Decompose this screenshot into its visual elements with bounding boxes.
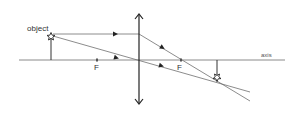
arrow-icon (113, 32, 118, 37)
focal-point-left (96, 59, 98, 62)
parallel-ray-refracted (139, 34, 250, 101)
focal-label-right: F (177, 64, 182, 72)
rays (53, 34, 250, 101)
focal-point-right (180, 59, 182, 62)
ray-diagram (0, 0, 289, 115)
image-marker (213, 60, 221, 82)
object-label: object (27, 25, 48, 33)
central-ray (53, 36, 250, 92)
arrow-icon (158, 63, 164, 69)
focal-label-left: F (94, 64, 99, 72)
star-icon (213, 74, 221, 82)
axis-label: axis (261, 52, 272, 58)
object-marker (47, 33, 55, 61)
converging-lens (135, 14, 143, 104)
